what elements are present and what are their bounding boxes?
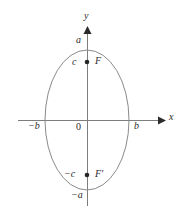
focus-upper-name-label: F bbox=[95, 56, 101, 66]
y-axis-arrowhead bbox=[84, 26, 92, 34]
covertex-left-label: −b bbox=[28, 121, 40, 131]
focus-upper-value-label: c bbox=[72, 57, 76, 67]
y-axis-label: y bbox=[84, 11, 88, 21]
x-axis-label: x bbox=[169, 112, 173, 122]
ellipse-diagram-canvas bbox=[0, 0, 186, 219]
focus-point-upper bbox=[85, 60, 90, 65]
vertex-top-label: a bbox=[76, 35, 81, 45]
x-axis-arrowhead bbox=[158, 117, 166, 125]
covertex-right-label: b bbox=[134, 121, 139, 131]
focus-point-lower bbox=[85, 173, 90, 178]
vertex-bottom-label: −a bbox=[71, 190, 83, 200]
focus-lower-name-label: F′ bbox=[95, 169, 103, 179]
focus-lower-value-label: −c bbox=[64, 169, 75, 179]
origin-label: 0 bbox=[76, 122, 81, 132]
ellipse-figure: y a c F −b 0 b x −c F′ −a bbox=[0, 0, 186, 219]
